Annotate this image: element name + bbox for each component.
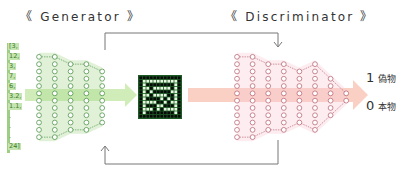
neuron-node	[344, 98, 349, 103]
neuron-node	[250, 127, 255, 132]
neuron-node	[250, 135, 255, 140]
neuron-node	[281, 106, 286, 111]
neuron-node	[100, 76, 105, 81]
neuron-node	[37, 127, 42, 132]
neuron-node	[250, 120, 255, 125]
neuron-node	[84, 76, 89, 81]
vector-value: 12,	[8, 53, 20, 60]
neuron-node	[84, 98, 89, 103]
neuron-node	[250, 106, 255, 111]
neuron-node	[68, 76, 73, 81]
neuron-node	[313, 76, 318, 81]
neuron-node	[100, 84, 105, 89]
neuron-node	[100, 69, 105, 74]
neuron-node	[235, 84, 240, 89]
neuron-node	[235, 135, 240, 140]
neuron-node	[281, 84, 286, 89]
feedback-loop-bottom	[101, 140, 278, 164]
neuron-node	[235, 98, 240, 103]
neuron-node	[313, 69, 318, 74]
neuron-node	[313, 98, 318, 103]
neuron-node	[235, 62, 240, 67]
neuron-node	[235, 120, 240, 125]
neuron-node	[266, 106, 271, 111]
neuron-node	[52, 69, 57, 74]
neuron-node	[281, 62, 286, 67]
neuron-node	[37, 120, 42, 125]
neuron-node	[68, 69, 73, 74]
neuron-node	[37, 62, 42, 67]
neuron-node	[84, 113, 89, 118]
neuron-node	[84, 127, 89, 132]
neuron-node	[84, 106, 89, 111]
output-fake-label: 偽物	[378, 74, 396, 84]
neuron-node	[52, 98, 57, 103]
neuron-node	[52, 135, 57, 140]
neuron-node	[313, 84, 318, 89]
neuron-node	[266, 62, 271, 67]
neuron-node	[313, 62, 318, 67]
neuron-node	[266, 127, 271, 132]
neuron-node	[281, 98, 286, 103]
neuron-node	[250, 69, 255, 74]
vector-value: .	[8, 133, 12, 140]
neuron-node	[68, 62, 73, 67]
neuron-node	[52, 120, 57, 125]
neuron-node	[235, 113, 240, 118]
neuron-node	[68, 98, 73, 103]
neuron-node	[84, 84, 89, 89]
neuron-node	[250, 98, 255, 103]
neuron-node	[313, 106, 318, 111]
neuron-node	[281, 120, 286, 125]
neuron-node	[266, 91, 271, 96]
neuron-node	[297, 76, 302, 81]
vector-value: 7,	[8, 73, 16, 80]
neuron-node	[266, 76, 271, 81]
neuron-node	[313, 91, 318, 96]
neuron-node	[297, 91, 302, 96]
neuron-node	[328, 91, 333, 96]
neuron-node	[235, 76, 240, 81]
neuron-node	[52, 127, 57, 132]
neuron-node	[281, 113, 286, 118]
neuron-node	[52, 54, 57, 59]
neuron-node	[313, 120, 318, 125]
neuron-node	[52, 113, 57, 118]
neuron-node	[100, 120, 105, 125]
neuron-node	[297, 106, 302, 111]
neuron-node	[68, 113, 73, 118]
neuron-node	[37, 84, 42, 89]
neuron-node	[313, 113, 318, 118]
neuron-node	[235, 106, 240, 111]
neuron-node	[37, 76, 42, 81]
discriminator-network	[235, 53, 349, 141]
neuron-node	[281, 69, 286, 74]
neuron-node	[250, 76, 255, 81]
neuron-node	[100, 98, 105, 103]
neuron-node	[297, 98, 302, 103]
neuron-node	[250, 84, 255, 89]
neuron-node	[37, 113, 42, 118]
neuron-node	[266, 84, 271, 89]
neuron-node	[328, 98, 333, 103]
neuron-node	[235, 127, 240, 132]
output-real: 0 本物	[366, 98, 396, 113]
neuron-node	[52, 62, 57, 67]
neuron-node	[250, 91, 255, 96]
generated-image	[138, 75, 182, 119]
neuron-node	[250, 54, 255, 59]
vector-value: 3,	[8, 63, 16, 70]
neuron-node	[52, 91, 57, 96]
feedback-loop-top	[105, 33, 282, 50]
neuron-node	[37, 69, 42, 74]
neuron-node	[68, 120, 73, 125]
neuron-node	[37, 54, 42, 59]
neuron-node	[297, 120, 302, 125]
neuron-node	[84, 120, 89, 125]
vector-value: 6,	[8, 83, 16, 90]
neuron-node	[344, 91, 349, 96]
neuron-node	[328, 113, 333, 118]
neuron-node	[37, 135, 42, 140]
vector-value: 24]	[8, 143, 21, 150]
neuron-node	[52, 76, 57, 81]
